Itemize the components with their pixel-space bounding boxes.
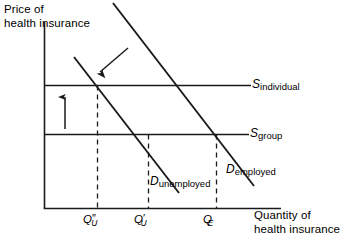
supply-curve-individual-label: Sindividual <box>252 77 300 91</box>
demand-unemployed-base: D <box>150 174 159 188</box>
supply-curve-group-label: Sgroup <box>250 126 282 140</box>
x-axis-title-line1: Quantity of <box>254 209 340 223</box>
tick-label-qe: QE <box>203 213 218 227</box>
demand-curve-unemployed-label: Dunemployed <box>150 174 210 188</box>
y-axis-title-line2: health insurance <box>4 17 90 31</box>
demand-unemployed-subscript: unemployed <box>159 178 211 189</box>
x-axis-title: Quantity of health insurance <box>254 209 340 236</box>
supply-demand-figure: Price of health insurance Quantity of he… <box>0 0 351 244</box>
demand-employed-base: D <box>226 162 235 176</box>
x-axis-title-line2: health insurance <box>254 223 340 237</box>
supply-group-subscript: group <box>258 130 282 141</box>
demand-employed-subscript: employed <box>235 166 276 177</box>
tick-qu1-subscript: U <box>141 218 147 228</box>
demand-curve-employed <box>113 3 254 186</box>
figure-canvas <box>0 0 351 244</box>
y-axis-title: Price of health insurance <box>4 3 90 30</box>
y-axis-title-line1: Price of <box>4 3 90 17</box>
demand-curve-unemployed <box>74 57 179 193</box>
tick-label-qu-prime: Q′U <box>134 213 151 227</box>
demand-shift-diagonal-arrow <box>100 48 128 72</box>
demand-curve-employed-label: Demployed <box>226 162 276 176</box>
tick-qu2-subscript: U <box>91 218 97 228</box>
supply-individual-subscript: individual <box>260 81 300 92</box>
supply-individual-base: S <box>252 77 260 91</box>
tick-qe-subscript: E <box>207 218 213 228</box>
tick-label-qu-double-prime: Q″U <box>83 213 102 227</box>
supply-group-base: S <box>250 126 258 140</box>
